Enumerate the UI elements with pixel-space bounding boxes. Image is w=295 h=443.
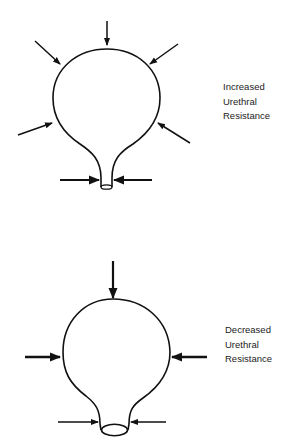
arrow-lower-left-icon <box>18 123 52 135</box>
label-decreased-resistance: Decreased Urethral Resistance <box>225 323 272 367</box>
diagram-canvas <box>0 0 295 443</box>
urethral-outlet-icon <box>101 185 112 189</box>
label-line: Increased <box>223 80 270 95</box>
label-increased-resistance: Increased Urethral Resistance <box>223 80 270 124</box>
bladder-increased-resistance <box>18 21 190 189</box>
urethral-outlet-icon <box>102 424 128 436</box>
arrow-upper-left-icon <box>35 41 60 64</box>
label-line: Decreased <box>225 323 272 338</box>
label-line: Urethral <box>225 338 272 353</box>
arrow-upper-right-icon <box>150 44 178 64</box>
arrow-lower-right-icon <box>158 123 190 143</box>
label-line: Resistance <box>225 352 272 367</box>
bladder-outline-icon <box>63 299 170 424</box>
pressure-arrows <box>25 261 207 422</box>
label-line: Resistance <box>223 109 270 124</box>
pressure-arrows <box>18 21 190 180</box>
label-line: Urethral <box>223 95 270 110</box>
bladder-outline-icon <box>53 49 160 178</box>
bladder-decreased-resistance <box>25 261 207 436</box>
